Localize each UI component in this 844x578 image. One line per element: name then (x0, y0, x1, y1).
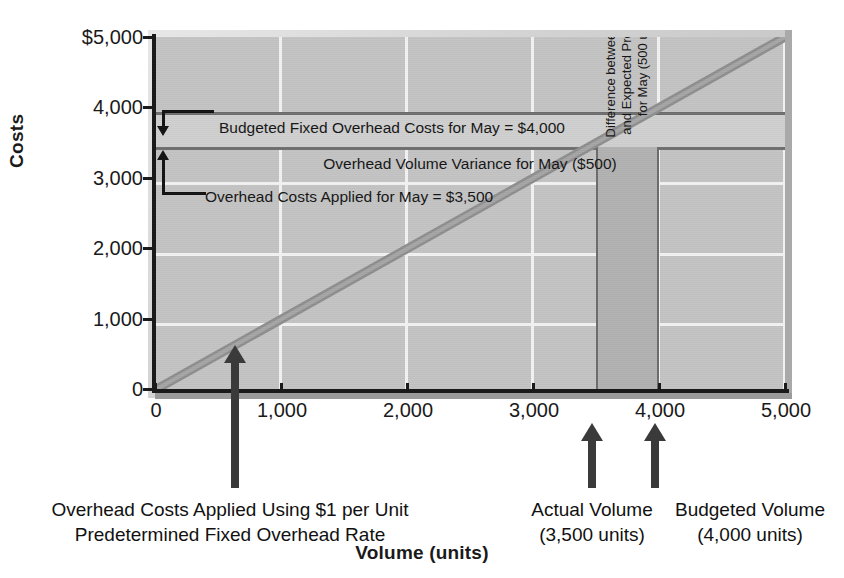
callout-arrow-actual-head-icon (581, 423, 603, 441)
production-difference-block (596, 147, 659, 390)
y-tick-label-5000: $5,000 (63, 26, 143, 49)
leader-budgeted-arrowhead-icon (157, 126, 169, 136)
leader-applied-vertical (162, 159, 165, 195)
callout-budgeted-line-1: Budgeted Volume (655, 497, 844, 522)
x-tick-label-2000: 2,000 (348, 399, 468, 422)
callout-budgeted-volume: Budgeted Volume (4,000 units) (655, 497, 844, 547)
vertical-line-actual-volume-3500 (596, 147, 598, 390)
callout-arrow-applied-shaft (231, 360, 239, 488)
vertical-line-budgeted-volume-4000 (657, 147, 659, 390)
callout-arrow-budgeted-shaft (651, 438, 659, 488)
callout-overhead-costs-applied-rate: Overhead Costs Applied Using $1 per Unit… (0, 497, 460, 547)
gridline-vertical-2000 (405, 37, 408, 390)
difference-label-line-1: Difference between Actual (603, 37, 619, 167)
callout-arrow-budgeted-head-icon (644, 423, 666, 441)
y-tick-mark-1000 (143, 318, 155, 321)
leader-budgeted-horizontal (162, 110, 214, 113)
x-tick-mark-1000 (280, 383, 283, 393)
x-tick-mark-0 (154, 383, 157, 393)
x-tick-mark-5000 (784, 383, 787, 393)
gridline-horizontal-1000 (155, 323, 785, 326)
x-tick-label-4000: 4,000 (600, 399, 720, 422)
band-edge-budgeted-4000 (155, 112, 785, 115)
x-tick-mark-4000 (658, 383, 661, 393)
gridline-horizontal-3000 (155, 182, 785, 185)
annotation-overhead-volume-variance: Overhead Volume Variance for May ($500) (155, 155, 785, 173)
gridline-horizontal-2000 (155, 253, 785, 256)
y-axis-tick-labels: $5,000 4,000 3,000 2,000 1,000 0 (48, 0, 143, 578)
leader-applied-horizontal (162, 192, 206, 195)
y-tick-mark-3000 (143, 177, 155, 180)
leader-applied-arrowhead-icon (157, 150, 169, 160)
annotation-budgeted-fixed-overhead: Budgeted Fixed Overhead Costs for May = … (219, 119, 565, 137)
y-tick-mark-5000 (143, 36, 155, 39)
overhead-volume-variance-chart: Difference between Actual and Expected P… (0, 0, 844, 578)
x-tick-label-1000: 1,000 (222, 399, 342, 422)
gridline-vertical-1000 (279, 37, 282, 390)
y-axis-line (152, 34, 156, 393)
plot-area: Difference between Actual and Expected P… (155, 37, 785, 390)
x-tick-mark-2000 (406, 383, 409, 393)
callout-applied-line-1: Overhead Costs Applied Using $1 per Unit (0, 497, 460, 522)
callout-arrow-applied-head-icon (224, 345, 246, 363)
y-tick-mark-4000 (143, 106, 155, 109)
callout-budgeted-line-2: (4,000 units) (655, 522, 844, 547)
x-tick-label-3000: 3,000 (474, 399, 594, 422)
y-tick-label-2000: 2,000 (63, 237, 143, 260)
production-difference-label: Difference between Actual and Expected P… (603, 37, 651, 167)
callout-arrow-actual-shaft (588, 438, 596, 488)
callout-applied-line-2: Predetermined Fixed Overhead Rate (0, 522, 460, 547)
y-tick-label-1000: 1,000 (63, 308, 143, 331)
x-tick-mark-3000 (532, 383, 535, 393)
band-edge-applied-3500 (155, 147, 785, 150)
gridline-vertical-5000 (783, 37, 785, 390)
x-tick-label-0: 0 (96, 399, 216, 422)
y-tick-mark-2000 (143, 247, 155, 250)
y-tick-label-3000: 3,000 (63, 167, 143, 190)
x-tick-label-5000: 5,000 (726, 399, 844, 422)
annotation-overhead-costs-applied: Overhead Costs Applied for May = $3,500 (205, 188, 493, 206)
x-axis-line (152, 389, 789, 393)
difference-label-line-2: and Expected Production (619, 37, 635, 167)
overhead-applied-line (155, 37, 785, 390)
y-tick-label-0: 0 (63, 378, 143, 401)
y-tick-label-4000: 4,000 (63, 96, 143, 119)
gridline-vertical-3000 (531, 37, 534, 390)
y-axis-title: Costs (6, 114, 28, 168)
difference-label-line-3: for May (500 units) (635, 37, 651, 167)
plot-right-shadow (785, 30, 792, 398)
